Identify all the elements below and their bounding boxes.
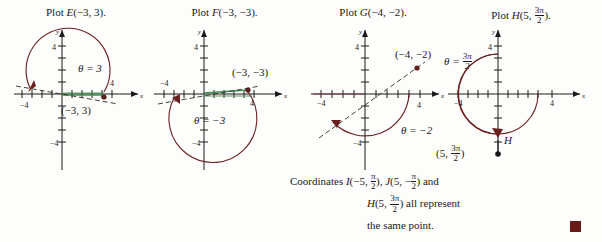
x-axis-arrow-e	[131, 91, 138, 97]
y-max-label-g: 4	[355, 43, 359, 52]
note-h-fraction: 3π2	[390, 194, 399, 213]
plot-graph-e: θ = 3 (−3, 3) −4 4 4 −4 x y	[0, 22, 152, 177]
plot-title-args: (−3, −3).	[219, 6, 258, 18]
x-axis-arrow-g	[432, 91, 439, 97]
x-max-label-g: 4	[417, 101, 421, 110]
note-h-post: ) all represent	[400, 198, 460, 210]
plot-title-e: Plot E(−3, 3).	[0, 6, 152, 18]
point-label-e: (−3, 3)	[61, 104, 91, 117]
plotted-point-f	[245, 87, 250, 92]
point-label-prefix: (5,	[436, 147, 451, 159]
terminal-ray-f	[158, 86, 260, 104]
plotted-point-e	[101, 94, 106, 99]
x-min-label-f: −4	[160, 79, 169, 88]
fraction-numerator: 3π	[535, 6, 544, 15]
note-j-post: ) and	[417, 175, 439, 187]
angle-arc-arrowhead-h	[492, 128, 503, 138]
note-symbol-h: H	[367, 198, 375, 210]
fraction-numerator: π	[411, 172, 416, 181]
y-min-label-f: −4	[192, 139, 201, 148]
x-min-label-g: −4	[317, 99, 326, 108]
x-min-label-e: −4	[20, 101, 29, 110]
angle-arc-f	[169, 92, 257, 163]
fraction-denominator: 2	[463, 61, 472, 71]
axes-e	[14, 30, 138, 170]
plot-title-args-pre: (5,	[520, 9, 535, 21]
plot-title-args: (−3, 3).	[73, 6, 106, 18]
theta-label-f: θ = −3	[194, 114, 226, 126]
plot-title-symbol: H	[512, 9, 520, 21]
note-lead: Coordinates	[290, 175, 346, 187]
y-max-label-h: 4	[488, 43, 492, 52]
point-label-suffix: )	[461, 147, 465, 159]
y-axis-arrow-e	[59, 30, 65, 37]
theta-label-g: θ = −2	[401, 124, 433, 136]
theta-label-h: θ = 3π2	[444, 52, 472, 71]
plot-panel-e: Plot E(−3, 3).	[0, 0, 152, 180]
fraction-numerator: 3π	[451, 144, 460, 153]
plot-title-prefix: Plot	[191, 6, 211, 18]
x-max-label-h: 4	[550, 99, 554, 108]
note-h-pre: (5,	[375, 198, 390, 210]
y-axis-name-g: y	[358, 28, 363, 36]
plot-graph-g: (−4, −2) θ = −2 −4 4 4 −4 x y	[297, 22, 449, 177]
x-axis-arrow-h	[573, 91, 580, 97]
note-i-pre: (−5,	[350, 175, 371, 187]
point-fraction: 3π2	[451, 144, 460, 163]
note-line-1: Coordinates I(−5, π2), J(5, −π2) and	[290, 172, 590, 191]
plot-title-symbol: G	[360, 6, 368, 18]
x-axis-name-h: x	[581, 92, 586, 100]
x-axis-name-e: x	[139, 92, 144, 100]
y-min-label-g: −4	[353, 139, 362, 148]
point-marker-label-h: H	[503, 134, 513, 146]
plotted-point-g	[414, 65, 419, 70]
y-axis-arrow-g	[362, 30, 368, 37]
fraction-numerator: 3π	[390, 194, 399, 203]
plot-title-prefix: Plot	[491, 9, 511, 21]
point-label-f: (−3, −3)	[232, 66, 269, 79]
plot-panel-g: Plot G(−4, −2).	[297, 0, 449, 180]
plot-panel-h: Plot H(5, 3π2).	[440, 0, 602, 180]
point-label-g: (−4, −2)	[395, 48, 432, 61]
fraction-numerator: 3π	[463, 52, 472, 61]
theta-label-e: θ = 3	[78, 62, 102, 74]
x-max-label-e: 4	[110, 79, 114, 88]
y-max-label-f: 4	[194, 43, 198, 52]
x-axis-arrow-f	[275, 91, 282, 97]
x-max-label-f: 4	[250, 99, 254, 108]
theta-fraction: 3π2	[463, 52, 472, 71]
angle-arc-h-part3	[470, 122, 498, 134]
plot-graph-f: (−3, −3) θ = −3 −4 4 4 −4 x y	[152, 22, 297, 177]
note-i-post: ),	[376, 175, 385, 187]
x-axis-name-f: x	[283, 92, 288, 100]
plot-title-prefix: Plot	[339, 6, 359, 18]
note-i-fraction: π2	[371, 172, 376, 191]
plot-title-f: Plot F(−3, −3).	[152, 6, 297, 18]
reference-segment-f	[204, 90, 248, 93]
y-axis-arrow-f	[201, 30, 207, 37]
fraction-denominator: 2	[411, 181, 416, 191]
angle-arc-arrowhead-g	[331, 120, 341, 128]
y-min-label-e: −4	[50, 139, 59, 148]
fraction-denominator: 2	[390, 204, 399, 214]
fraction-denominator: 2	[371, 181, 376, 191]
point-label-h: (5, 3π2)	[436, 144, 464, 163]
y-axis-name-f: y	[197, 28, 202, 36]
plot-title-prefix: Plot	[46, 6, 66, 18]
fraction-denominator: 2	[451, 153, 460, 163]
note-j-fraction: π2	[411, 172, 416, 191]
y-axis-arrow-h	[495, 30, 501, 37]
polar-coordinates-figure: Plot E(−3, 3).	[0, 0, 602, 242]
fraction-numerator: π	[371, 172, 376, 181]
note-line-3: the same point.	[367, 217, 590, 233]
note-j-pre: (5, −	[390, 175, 411, 187]
y-axis-name-h: y	[491, 28, 496, 36]
plot-title-g: Plot G(−4, −2).	[297, 6, 449, 18]
x-min-label-h: −4	[454, 99, 463, 108]
note-line-2: H(5, 3π2) all represent	[367, 194, 590, 213]
plot-panel-f: Plot F(−3, −3).	[152, 0, 297, 180]
coordinates-note: Coordinates I(−5, π2), J(5, −π2) and H(5…	[290, 172, 590, 233]
theta-label-prefix: θ =	[444, 55, 462, 67]
y-max-label-e: 4	[52, 43, 56, 52]
plot-title-args-post: ).	[544, 9, 550, 21]
